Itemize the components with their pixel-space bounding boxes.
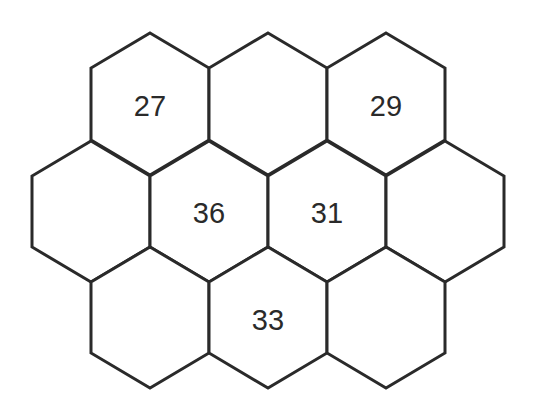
hex-value: 36 xyxy=(193,197,225,229)
hex-value: 31 xyxy=(311,197,343,229)
hex-value: 27 xyxy=(134,90,166,122)
hex-value: 33 xyxy=(252,304,284,336)
hexagon-grid-diagram: 27 29 36 31 xyxy=(0,0,538,417)
hex-value: 29 xyxy=(370,90,402,122)
hexagon-grid-svg: 27 29 36 31 xyxy=(0,0,538,417)
